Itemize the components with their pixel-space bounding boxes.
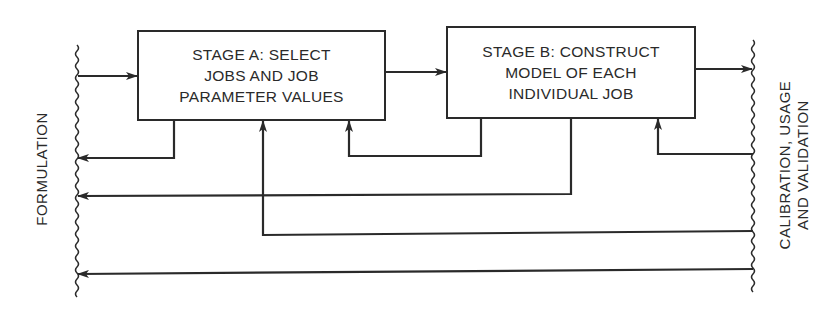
stage-a-box: STAGE A: SELECT JOBS AND JOB PARAMETER V… [137, 30, 386, 121]
stage-a-label: STAGE A: SELECT JOBS AND JOB PARAMETER V… [179, 44, 343, 107]
feedback-calibration-to-stage-b [658, 119, 753, 154]
calibration-boundary [752, 40, 755, 292]
calibration-usage-validation-label: CALIBRATION, USAGE AND VALIDATION [776, 75, 812, 255]
stage-b-box: STAGE B: CONSTRUCT MODEL OF EACH INDIVID… [446, 26, 696, 119]
feedback-stage-a-to-formulation [78, 120, 174, 158]
diagram-canvas [0, 0, 840, 309]
formulation-label: FORMULATION [33, 109, 51, 229]
stage-b-label: STAGE B: CONSTRUCT MODEL OF EACH INDIVID… [482, 41, 659, 104]
feedback-calibration-to-stage-a [263, 121, 753, 235]
formulation-boundary [76, 45, 79, 297]
feedback-calibration-to-formulation [78, 269, 753, 274]
feedback-stage-b-to-stage-a [349, 118, 481, 156]
